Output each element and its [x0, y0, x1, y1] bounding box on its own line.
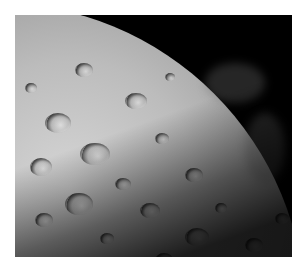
crater: [185, 168, 203, 182]
crater: [155, 253, 173, 257]
crater: [80, 143, 110, 165]
crater: [25, 83, 37, 93]
crater: [215, 203, 227, 213]
crater: [140, 203, 160, 218]
mare-region: [205, 63, 265, 103]
crater: [165, 73, 175, 81]
crater: [185, 228, 209, 246]
crater: [155, 133, 169, 144]
moon-disc: [15, 15, 292, 257]
crater: [125, 93, 147, 109]
crater: [245, 238, 263, 252]
crater: [75, 63, 93, 77]
crater: [65, 193, 93, 215]
crater: [100, 233, 114, 244]
crater: [275, 213, 289, 224]
moon-photograph: Lunar surface with craters, curved limb …: [15, 15, 292, 257]
mare-region: [245, 113, 285, 183]
crater: [35, 213, 53, 227]
crater: [115, 178, 131, 190]
crater: [45, 113, 71, 133]
crater: [30, 158, 52, 176]
